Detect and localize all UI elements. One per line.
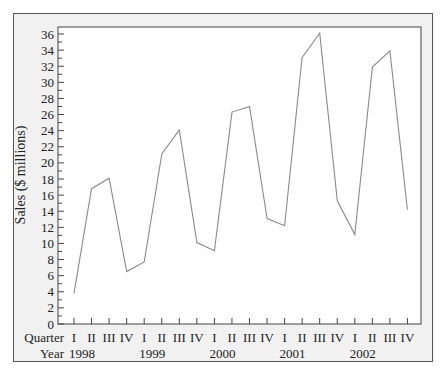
- y-tick-label: 28: [41, 91, 54, 106]
- y-tick-label: 26: [41, 107, 55, 122]
- y-tick-label: 8: [48, 252, 55, 267]
- y-tick-label: 36: [41, 27, 55, 42]
- y-tick-label: 14: [41, 204, 55, 219]
- quarter-tick-label: III: [173, 330, 186, 345]
- year-tick-label: 1998: [69, 346, 95, 361]
- quarter-tick-label: III: [313, 330, 326, 345]
- y-tick-label: 16: [41, 188, 55, 203]
- year-tick-label: 2001: [280, 346, 306, 361]
- plot-area: [58, 27, 421, 324]
- quarter-tick-label: II: [87, 330, 96, 345]
- quarter-tick-label: IV: [330, 330, 344, 345]
- quarter-tick-label: IV: [190, 330, 204, 345]
- quarter-tick-label: I: [142, 330, 146, 345]
- year-tick-label: 2002: [350, 346, 376, 361]
- y-tick-label: 2: [48, 300, 55, 315]
- quarter-tick-label: II: [228, 330, 237, 345]
- y-tick-label: 10: [41, 236, 54, 251]
- quarter-tick-label: III: [243, 330, 256, 345]
- y-tick-label: 30: [41, 75, 54, 90]
- y-tick-label: 12: [41, 220, 54, 235]
- year-tick-label: 1999: [139, 346, 165, 361]
- quarter-tick-label: III: [103, 330, 116, 345]
- y-tick-label: 6: [48, 268, 55, 283]
- line-chart: 024681012141618202224262830323436 IIIIII…: [0, 0, 443, 374]
- quarter-tick-label: IV: [401, 330, 415, 345]
- year-row-label: Year: [40, 346, 65, 361]
- quarter-tick-label: IV: [120, 330, 134, 345]
- quarter-tick-label: I: [353, 330, 357, 345]
- quarter-tick-label: II: [298, 330, 307, 345]
- quarter-tick-label: I: [212, 330, 216, 345]
- y-tick-label: 20: [41, 155, 54, 170]
- quarter-tick-label: II: [157, 330, 166, 345]
- quarter-tick-label: IV: [260, 330, 274, 345]
- y-tick-label: 4: [48, 284, 55, 299]
- y-tick-label: 22: [41, 139, 54, 154]
- y-tick-label: 34: [41, 43, 55, 58]
- quarter-row-label: Quarter: [24, 330, 64, 345]
- y-tick-label: 32: [41, 59, 54, 74]
- quarter-tick-label: I: [72, 330, 76, 345]
- quarter-tick-label: III: [383, 330, 396, 345]
- quarter-tick-label: I: [282, 330, 286, 345]
- y-tick-label: 24: [41, 123, 55, 138]
- y-axis-title: Sales ($ millions): [13, 125, 29, 224]
- y-tick-label: 18: [41, 172, 54, 187]
- quarter-tick-label: II: [368, 330, 377, 345]
- year-tick-label: 2000: [209, 346, 235, 361]
